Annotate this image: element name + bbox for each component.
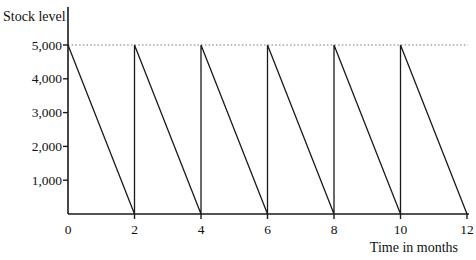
x-tick-label: 10 bbox=[394, 222, 408, 237]
sawtooth-line-chart: 1,0002,0003,0004,0005,000024681012 bbox=[0, 0, 476, 260]
x-axis-title: Time in months bbox=[370, 240, 458, 256]
y-tick-label: 3,000 bbox=[32, 105, 63, 120]
y-tick-label: 5,000 bbox=[32, 38, 63, 53]
x-tick-label: 12 bbox=[460, 222, 474, 237]
y-tick-label: 4,000 bbox=[32, 71, 63, 86]
x-tick-label: 8 bbox=[331, 222, 338, 237]
y-tick-label: 2,000 bbox=[32, 139, 63, 154]
stock-level-sawtooth bbox=[68, 45, 467, 214]
y-tick-label: 1,000 bbox=[32, 173, 63, 188]
x-tick-label: 4 bbox=[198, 222, 205, 237]
x-tick-label: 6 bbox=[264, 222, 271, 237]
x-tick-label: 0 bbox=[65, 222, 72, 237]
chart-figure: Stock level 1,0002,0003,0004,0005,000024… bbox=[0, 0, 476, 260]
x-tick-label: 2 bbox=[131, 222, 138, 237]
